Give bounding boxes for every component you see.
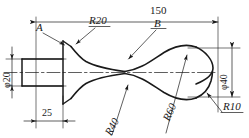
leader-lines — [43, 27, 243, 136]
label-radius-r20: R20 — [89, 15, 107, 26]
label-point-b: B — [154, 18, 161, 29]
dimension-shaft-length: 25 — [42, 108, 52, 118]
label-radius-r10: R10 — [223, 101, 241, 112]
dimension-head-diameter: φ40 — [219, 74, 229, 90]
profile-lower — [71, 72, 213, 100]
dimension-overall-length: 150 — [150, 5, 167, 16]
label-point-a: A — [36, 22, 43, 33]
technical-drawing-canvas: 150 25 φ20 φ40 A B R20 R40 R60 R10 — [0, 0, 249, 138]
dimension-shaft-diameter: φ20 — [2, 72, 12, 88]
